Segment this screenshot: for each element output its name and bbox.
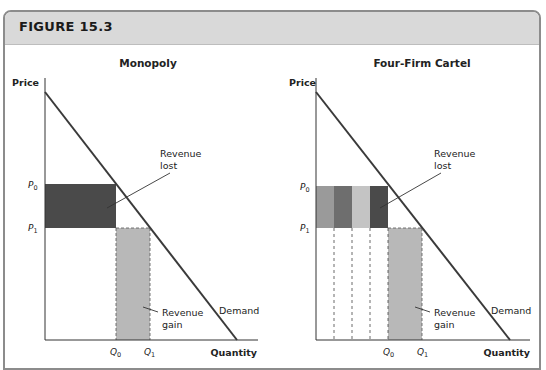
cartel-firm-2-area — [334, 186, 352, 228]
cartel-revenue-gain-area — [388, 228, 422, 340]
monopoly-title: Monopoly — [119, 57, 177, 69]
monopoly-revenue-lost-label-2: lost — [160, 160, 177, 171]
cartel-panel: Four-Firm Cartel Price Quantity P0 P1 Q0… — [289, 57, 531, 359]
cartel-firm-1-area — [316, 186, 334, 228]
cartel-p1-label: P1 — [300, 223, 310, 235]
cartel-revenue-lost-label-1: Revenue — [434, 148, 476, 159]
monopoly-x-axis-label: Quantity — [210, 347, 257, 358]
monopoly-demand-label: Demand — [219, 305, 259, 316]
cartel-title: Four-Firm Cartel — [373, 57, 470, 69]
cartel-firm-4-area — [370, 186, 388, 228]
monopoly-revenue-lost-area — [45, 184, 116, 228]
cartel-x-axis-label: Quantity — [483, 347, 530, 358]
monopoly-revenue-gain-area — [116, 228, 150, 340]
monopoly-p1-label: P1 — [28, 223, 38, 235]
cartel-p0-label: P0 — [300, 182, 310, 194]
monopoly-q1-label: Q1 — [144, 347, 155, 359]
monopoly-revenue-lost-label-1: Revenue — [160, 148, 202, 159]
monopoly-q0-label: Q0 — [110, 347, 121, 359]
cartel-revenue-gain-label-2: gain — [434, 319, 455, 330]
cartel-firm-3-area — [352, 186, 370, 228]
monopoly-panel: Monopoly Price Quantity P0 P1 Q0 Q1 Reve… — [12, 57, 259, 359]
cartel-q1-label: Q1 — [417, 347, 428, 359]
cartel-revenue-lost-pointer — [380, 173, 441, 208]
cartel-revenue-lost-label-2: lost — [434, 160, 451, 171]
monopoly-revenue-lost-pointer — [107, 173, 170, 208]
monopoly-revenue-gain-label-2: gain — [162, 319, 183, 330]
monopoly-p0-label: P0 — [28, 180, 38, 192]
monopoly-y-axis-label: Price — [12, 77, 39, 88]
cartel-demand-label: Demand — [491, 305, 531, 316]
monopoly-revenue-gain-label-1: Revenue — [162, 307, 204, 318]
cartel-q0-label: Q0 — [383, 347, 394, 359]
cartel-y-axis-label: Price — [289, 77, 316, 88]
cartel-revenue-gain-label-1: Revenue — [434, 307, 476, 318]
